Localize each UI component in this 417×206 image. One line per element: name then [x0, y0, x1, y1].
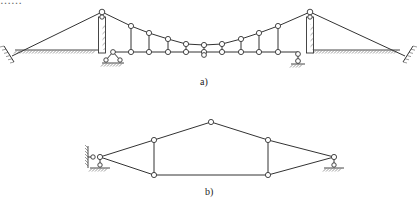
- support-node: [296, 52, 301, 57]
- ground-hatch: [71, 51, 74, 54]
- cable-node: [128, 23, 133, 28]
- structural-diagram: [0, 0, 417, 206]
- support-node: [104, 58, 108, 62]
- ground-hatch: [101, 64, 104, 67]
- diagram-a: [0, 9, 417, 67]
- ground-hatch: [388, 51, 391, 54]
- ground-hatch: [104, 169, 107, 172]
- ground-hatch: [92, 169, 95, 172]
- ground-hatch: [26, 51, 29, 54]
- ground-hatch: [98, 169, 101, 172]
- ground-hatch: [322, 51, 325, 54]
- left-backstay: [12, 12, 102, 56]
- ground-hatch: [80, 51, 83, 54]
- ground-hatch: [337, 51, 340, 54]
- support-node: [91, 155, 95, 159]
- cable-node: [275, 23, 280, 28]
- anchor-hatch: [405, 59, 409, 60]
- ground-hatch: [83, 51, 86, 54]
- anchor-hatch: [403, 62, 407, 63]
- ground-hatch: [338, 169, 341, 172]
- ground-hatch: [358, 51, 361, 54]
- deck-middle-node: [202, 53, 207, 58]
- ground-hatch: [382, 51, 385, 54]
- ground-hatch: [326, 169, 329, 172]
- anchor-hatch: [407, 56, 411, 57]
- right-tower-hatch: [311, 24, 314, 50]
- ground-hatch: [116, 64, 119, 67]
- diagram-b: [85, 119, 344, 177]
- upper-chord: [211, 122, 268, 140]
- ground-hatch: [323, 169, 326, 172]
- cable-node: [219, 41, 224, 46]
- ground-hatch: [361, 51, 364, 54]
- anchor-hatch: [2, 49, 6, 50]
- cable-node: [238, 36, 243, 41]
- lower-chord: [100, 157, 154, 175]
- anchor-hatch: [10, 62, 14, 63]
- ground-hatch: [335, 169, 338, 172]
- upper-chord: [268, 140, 334, 157]
- upper-chord: [154, 122, 211, 140]
- ground-hatch: [32, 51, 35, 54]
- deck-node: [183, 49, 188, 54]
- ground-hatch: [110, 64, 113, 67]
- anchor-hatch: [4, 52, 8, 53]
- ground-hatch: [316, 51, 319, 54]
- ground-hatch: [101, 169, 104, 172]
- ground-hatch: [319, 51, 322, 54]
- node-upper-right: [265, 137, 270, 142]
- cable-node: [165, 36, 170, 41]
- node-right-support: [331, 154, 336, 159]
- anchor-hatch: [8, 59, 12, 60]
- ground-hatch: [328, 51, 331, 54]
- ground-hatch: [44, 51, 47, 54]
- ground-hatch: [290, 65, 293, 68]
- ground-hatch: [47, 51, 50, 54]
- ground-hatch: [352, 51, 355, 54]
- right-tower-top-node: [307, 9, 313, 15]
- node-upper-left: [151, 137, 156, 142]
- ground-hatch: [332, 169, 335, 172]
- ground-hatch: [293, 65, 296, 68]
- ground-hatch: [364, 51, 367, 54]
- ground-hatch: [329, 169, 332, 172]
- ground-hatch: [373, 51, 376, 54]
- deck-node: [238, 49, 243, 54]
- ground-hatch: [38, 51, 41, 54]
- ground-hatch: [367, 51, 370, 54]
- cable-node: [183, 41, 188, 46]
- ground-hatch: [349, 51, 352, 54]
- support-node: [98, 163, 102, 167]
- ground-hatch: [376, 51, 379, 54]
- ground-hatch: [325, 51, 328, 54]
- ground-hatch: [104, 64, 107, 67]
- anchor-hatch: [409, 52, 413, 53]
- ground-hatch: [65, 51, 68, 54]
- ground-hatch: [355, 51, 358, 54]
- ground-hatch: [346, 51, 349, 54]
- ground-hatch: [53, 51, 56, 54]
- ground-hatch: [107, 64, 110, 67]
- upper-chord: [100, 140, 154, 157]
- ground-hatch: [119, 64, 122, 67]
- ground-hatch: [68, 51, 71, 54]
- ground-hatch: [41, 51, 44, 54]
- anchor-hatch: [6, 56, 10, 57]
- main-cable-segment: [102, 12, 131, 26]
- node-lower-right: [265, 172, 270, 177]
- ground-hatch: [296, 65, 299, 68]
- deck-node: [219, 49, 224, 54]
- ground-hatch: [74, 51, 77, 54]
- cable-node: [146, 30, 151, 35]
- deck-node: [256, 49, 261, 54]
- ground-hatch: [89, 169, 92, 172]
- cable-node: [256, 30, 261, 35]
- tower-bearing-node: [308, 15, 312, 19]
- ground-hatch: [385, 51, 388, 54]
- ground-hatch: [379, 51, 382, 54]
- ground-hatch: [113, 64, 116, 67]
- ground-hatch: [86, 51, 89, 54]
- label-a: a): [200, 76, 208, 87]
- left-tower-top-node: [99, 9, 105, 15]
